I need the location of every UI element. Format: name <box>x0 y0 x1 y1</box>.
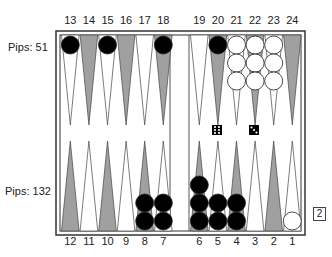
point-label-10: 10 <box>101 235 113 247</box>
top-pip-count: Pips: 51 <box>8 41 48 53</box>
black-checker-point-6[interactable] <box>190 176 208 194</box>
black-checker-point-15[interactable] <box>99 36 117 54</box>
black-checker-point-6[interactable] <box>190 194 208 212</box>
point-label-3: 3 <box>252 235 258 247</box>
die-2-pip <box>250 126 252 128</box>
black-checker-point-13[interactable] <box>61 36 79 54</box>
point-label-20: 20 <box>212 14 224 26</box>
point-label-13: 13 <box>64 14 76 26</box>
white-checker-point-23[interactable] <box>265 54 283 72</box>
die-1-pip <box>218 132 220 134</box>
black-checker-point-7[interactable] <box>154 194 172 212</box>
point-label-22: 22 <box>249 14 261 26</box>
white-checker-point-23[interactable] <box>265 36 283 54</box>
white-checker-point-22[interactable] <box>246 72 264 90</box>
white-checker-point-1[interactable] <box>283 212 301 230</box>
die-1-pip <box>218 126 220 128</box>
die-1-pip <box>214 126 216 128</box>
die-1-pip <box>214 132 216 134</box>
white-checker-point-21[interactable] <box>228 54 246 72</box>
point-label-2: 2 <box>271 235 277 247</box>
die-2-pip <box>255 131 257 133</box>
point-label-15: 15 <box>101 14 113 26</box>
point-label-9: 9 <box>123 235 129 247</box>
point-label-4: 4 <box>233 235 239 247</box>
black-checker-point-4[interactable] <box>228 194 246 212</box>
black-checker-point-7[interactable] <box>154 212 172 230</box>
black-checker-point-20[interactable] <box>209 36 227 54</box>
point-label-14: 14 <box>83 14 95 26</box>
white-checker-point-23[interactable] <box>265 72 283 90</box>
white-checker-point-21[interactable] <box>228 36 246 54</box>
point-label-23: 23 <box>268 14 280 26</box>
die-1-pip <box>214 129 216 131</box>
point-label-6: 6 <box>196 235 202 247</box>
black-checker-point-8[interactable] <box>136 194 154 212</box>
point-label-17: 17 <box>139 14 151 26</box>
black-checker-point-6[interactable] <box>190 212 208 230</box>
point-label-21: 21 <box>230 14 242 26</box>
bottom-pip-count: Pips: 132 <box>5 185 51 197</box>
die-1[interactable] <box>212 125 222 135</box>
black-checker-point-5[interactable] <box>209 212 227 230</box>
white-checker-point-22[interactable] <box>246 54 264 72</box>
black-checker-point-8[interactable] <box>136 212 154 230</box>
white-checker-point-21[interactable] <box>228 72 246 90</box>
doubling-cube[interactable]: 2 <box>313 207 326 221</box>
point-label-7: 7 <box>160 235 166 247</box>
point-label-24: 24 <box>286 14 298 26</box>
point-label-19: 19 <box>193 14 205 26</box>
point-label-11: 11 <box>83 235 94 247</box>
point-label-16: 16 <box>120 14 132 26</box>
black-checker-point-18[interactable] <box>154 36 172 54</box>
point-label-1: 1 <box>289 235 295 247</box>
backgammon-board: 131415161718192021222324121110987654321 <box>0 0 332 257</box>
die-2-pip <box>253 129 255 131</box>
point-label-12: 12 <box>64 235 76 247</box>
die-1-pip <box>218 129 220 131</box>
white-checker-point-22[interactable] <box>246 36 264 54</box>
point-label-5: 5 <box>215 235 221 247</box>
point-label-18: 18 <box>157 14 169 26</box>
point-label-8: 8 <box>142 235 148 247</box>
black-checker-point-4[interactable] <box>228 212 246 230</box>
black-checker-point-5[interactable] <box>209 194 227 212</box>
